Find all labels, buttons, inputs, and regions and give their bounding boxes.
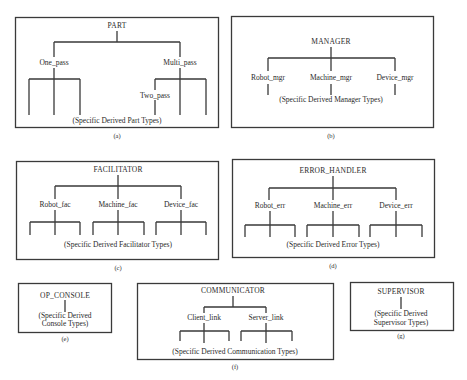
node-one-pass: One_pass xyxy=(39,58,68,67)
edges-facilitator xyxy=(55,175,181,199)
node-client-link: Client_link xyxy=(187,313,221,322)
diagram-g-supervisor-hierarchy: SUPERVISOR (Specific Derived Supervisor … xyxy=(351,283,454,341)
edges-robot-fac xyxy=(30,210,80,235)
caption-f: (f) xyxy=(232,363,239,371)
node-error-handler: ERROR_HANDLER xyxy=(299,166,366,175)
node-robot-mgr: Robot_mgr xyxy=(251,73,286,82)
edges-device-fac xyxy=(156,210,206,235)
node-machine-mgr: Machine_mgr xyxy=(310,73,353,82)
edges-manager xyxy=(268,47,395,71)
leaf-note-communication: (Specific Derived Communication Types) xyxy=(172,347,298,356)
caption-b: (b) xyxy=(327,132,335,140)
edges-client-link xyxy=(180,323,229,343)
leaf-note-manager: (Specific Derived Manager Types) xyxy=(279,95,383,104)
edges-device-err xyxy=(370,211,422,237)
edges-communicator xyxy=(204,296,266,313)
node-facilitator: FACILITATOR xyxy=(93,165,142,174)
node-device-mgr: Device_mgr xyxy=(376,73,414,82)
leaf-note-console-line2: Console Types) xyxy=(42,319,89,328)
diagram-b-manager-hierarchy: MANAGER Robot_mgr Machine_mgr Device_mgr… xyxy=(232,17,434,141)
caption-d: (d) xyxy=(329,262,337,270)
node-server-link: Server_link xyxy=(249,313,284,322)
diagram-e-op-console-hierarchy: OP_CONSOLE (Specific Derived Console Typ… xyxy=(19,284,112,344)
edges-one-pass xyxy=(29,68,80,115)
diagram-b-frame xyxy=(232,17,434,128)
node-robot-err: Robot_err xyxy=(255,201,286,210)
caption-a: (a) xyxy=(113,132,120,140)
caption-e: (e) xyxy=(61,335,68,343)
node-op-console: OP_CONSOLE xyxy=(40,291,90,300)
edges-part xyxy=(54,31,180,57)
leaf-note-part: (Specific Derived Part Types) xyxy=(72,116,162,125)
leaf-note-facilitator: (Specific Derived Facilitator Types) xyxy=(64,240,172,249)
edges-machine-fac xyxy=(93,210,144,235)
caption-c: (c) xyxy=(114,264,121,272)
caption-g: (g) xyxy=(397,332,405,340)
node-device-err: Device_err xyxy=(379,201,413,210)
class-hierarchy-figure: PART One_pass Multi_pass Two_pass (Speci… xyxy=(0,0,467,380)
edges-manager-leaves xyxy=(268,84,395,95)
node-machine-err: Machine_err xyxy=(314,201,353,210)
edges-robot-err xyxy=(245,211,295,237)
node-two-pass: Two_pass xyxy=(140,91,170,100)
diagram-f-communicator-hierarchy: COMMUNICATOR Client_link Server_link (Sp… xyxy=(138,284,334,372)
node-supervisor: SUPERVISOR xyxy=(377,287,424,296)
diagram-d-error-handler-hierarchy: ERROR_HANDLER Robot_err Machine_err Devi… xyxy=(233,160,435,271)
node-communicator: COMMUNICATOR xyxy=(201,286,265,295)
node-device-fac: Device_fac xyxy=(164,200,199,209)
edges-machine-err xyxy=(307,211,359,237)
node-part: PART xyxy=(108,21,127,30)
node-manager: MANAGER xyxy=(311,37,350,46)
edges-server-link xyxy=(241,323,292,343)
diagram-c-facilitator-hierarchy: FACILITATOR Robot_fac Machine_fac Device… xyxy=(17,162,219,273)
node-robot-fac: Robot_fac xyxy=(39,200,71,209)
leaf-note-supervisor-line2: Supervisor Types) xyxy=(374,318,429,327)
leaf-note-supervisor-line1: (Specific Derived xyxy=(374,309,427,318)
diagram-a-part-hierarchy: PART One_pass Multi_pass Two_pass (Speci… xyxy=(16,18,219,141)
node-multi-pass: Multi_pass xyxy=(163,58,196,67)
edges-error-handler xyxy=(269,176,396,200)
node-machine-fac: Machine_fac xyxy=(98,200,138,209)
leaf-note-error: (Specific Derived Error Types) xyxy=(287,240,380,249)
